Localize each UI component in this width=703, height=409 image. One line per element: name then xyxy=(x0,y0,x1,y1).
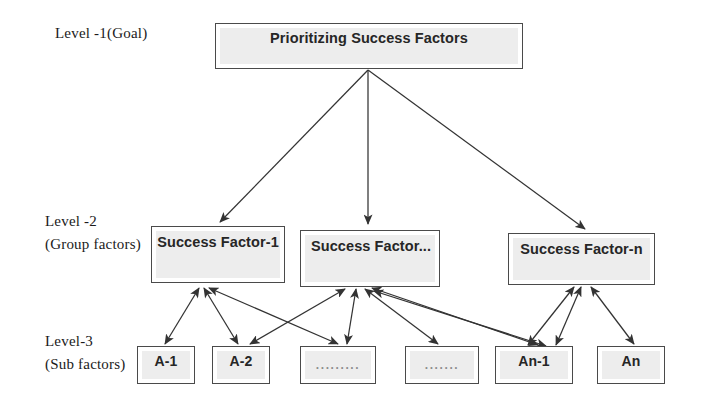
group-factor-node-2-label: Success Factor... xyxy=(309,238,431,254)
edge-sfmid-to-an1-a xyxy=(372,288,538,345)
edge-goal-to-sfn xyxy=(368,70,585,229)
edge-goal-to-sf1 xyxy=(220,70,368,222)
goal-node[interactable]: Prioritizing Success Factors xyxy=(215,23,523,69)
edge-sf1-to-dots1 xyxy=(209,288,338,344)
edge-sfn-to-an xyxy=(591,287,634,344)
sub-factor-node-an-1-label: An-1 xyxy=(518,353,550,369)
sub-factor-node-an-1[interactable]: An-1 xyxy=(495,346,573,384)
edge-sfmid-to-dots1 xyxy=(347,289,356,344)
edge-sf1-to-a2 xyxy=(204,288,238,344)
group-factor-node-1[interactable]: Success Factor-1 xyxy=(151,226,285,283)
sub-factor-node-an-label: An xyxy=(622,353,641,369)
sub-factor-node-ellipsis-1-label: ......... xyxy=(316,358,360,372)
sub-factor-node-a-1[interactable]: A-1 xyxy=(137,346,195,384)
edge-sfn-to-an1-b xyxy=(556,287,581,345)
level-1-label: Level -1(Goal) xyxy=(55,22,147,45)
sub-factor-node-ellipsis-2-label: ....... xyxy=(425,358,460,372)
sub-factor-node-an[interactable]: An xyxy=(597,346,665,384)
edge-sfmid-to-a2 xyxy=(250,289,345,344)
group-factor-node-3-label: Success Factor-n xyxy=(520,241,642,257)
group-factor-node-3[interactable]: Success Factor-n xyxy=(508,233,655,285)
edge-sfmid-to-dots2 xyxy=(365,289,438,344)
edge-sf1-to-a1 xyxy=(165,288,199,344)
sub-factor-node-a-1-label: A-1 xyxy=(155,353,178,369)
sub-factor-node-ellipsis-1[interactable]: ......... xyxy=(300,346,376,384)
sub-factor-node-ellipsis-2[interactable]: ....... xyxy=(405,346,479,384)
sub-factor-node-a-2-label: A-2 xyxy=(230,353,253,369)
goal-node-label: Prioritizing Success Factors xyxy=(270,30,468,46)
group-factor-node-2[interactable]: Success Factor... xyxy=(300,230,440,287)
sub-factor-node-a-2[interactable]: A-2 xyxy=(212,346,270,384)
edge-sfn-to-an1-a xyxy=(528,287,574,345)
edge-sfmid-to-an1-b xyxy=(374,291,546,346)
level-2-label: Level -2 (Group factors) xyxy=(45,210,141,257)
group-factor-node-1-label: Success Factor-1 xyxy=(157,234,279,250)
diagram-canvas: Level -1(Goal) Level -2 (Group factors) … xyxy=(0,0,703,409)
level-3-label: Level-3 (Sub factors) xyxy=(45,330,126,377)
